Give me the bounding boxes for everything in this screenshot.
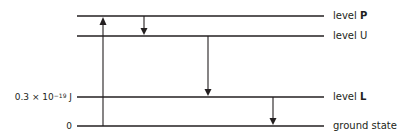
ground-energy-label: 0 <box>66 120 72 132</box>
level-u-label: level U <box>333 30 367 42</box>
level-l-label: level L <box>333 91 366 103</box>
ground-state-label: ground state <box>333 120 397 132</box>
level-l-energy-label: 0.3 × 10−19 J <box>15 91 72 103</box>
level-p-label: level P <box>333 10 367 22</box>
